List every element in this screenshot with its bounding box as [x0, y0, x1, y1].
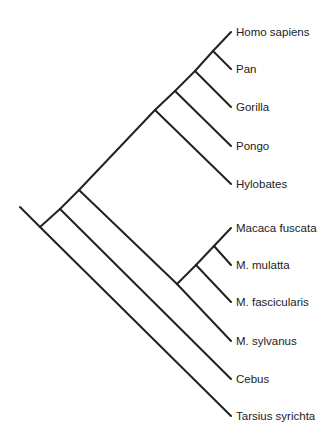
phylogenetic-tree [0, 0, 334, 437]
root-stem [20, 207, 40, 227]
branch-hominidae-homininae [175, 71, 195, 91]
taxon-label-m-sylvanus: M. sylvanus [236, 334, 297, 348]
branch-root-tarsius [40, 227, 231, 416]
branch-homo_pan-homo [213, 32, 231, 51]
tree-branches [20, 32, 231, 416]
taxon-label-m-fascicularis: M. fascicularis [236, 295, 309, 309]
branch-fuscata_mulatta-fuscata [214, 228, 231, 246]
taxon-label-hylobates: Hylobates [236, 177, 287, 191]
branch-macaca_asian-fuscata_mulatta [196, 246, 214, 265]
branch-catarrhini-macaca [79, 190, 177, 284]
branch-hominoidea-hylobates [155, 110, 231, 184]
branch-homininae-homo_pan [195, 51, 213, 71]
taxon-label-gorilla: Gorilla [236, 100, 269, 114]
branch-homo_pan-pan [213, 51, 231, 69]
branch-hominoidea-hominidae [155, 91, 175, 110]
taxon-label-pongo: Pongo [236, 139, 269, 153]
branch-macaca_asian-fascicularis [196, 265, 231, 302]
taxon-label-macaca-fuscata: Macaca fuscata [236, 221, 317, 235]
taxon-label-pan: Pan [236, 62, 256, 76]
branch-root-anthropoidea [40, 209, 60, 227]
taxon-label-cebus: Cebus [236, 372, 269, 386]
branch-anthropoidea-catarrhini [60, 190, 79, 209]
taxon-label-m-mulatta: M. mulatta [236, 258, 290, 272]
branch-macaca-macaca_asian [177, 265, 196, 284]
branch-homininae-gorilla [195, 71, 231, 107]
branch-catarrhini-hominoidea [79, 110, 155, 190]
taxon-label-homo-sapiens: Homo sapiens [236, 25, 310, 39]
branch-fuscata_mulatta-mulatta [214, 246, 231, 265]
branch-anthropoidea-cebus [60, 209, 231, 379]
taxon-label-tarsius-syrichta: Tarsius syrichta [236, 409, 315, 423]
